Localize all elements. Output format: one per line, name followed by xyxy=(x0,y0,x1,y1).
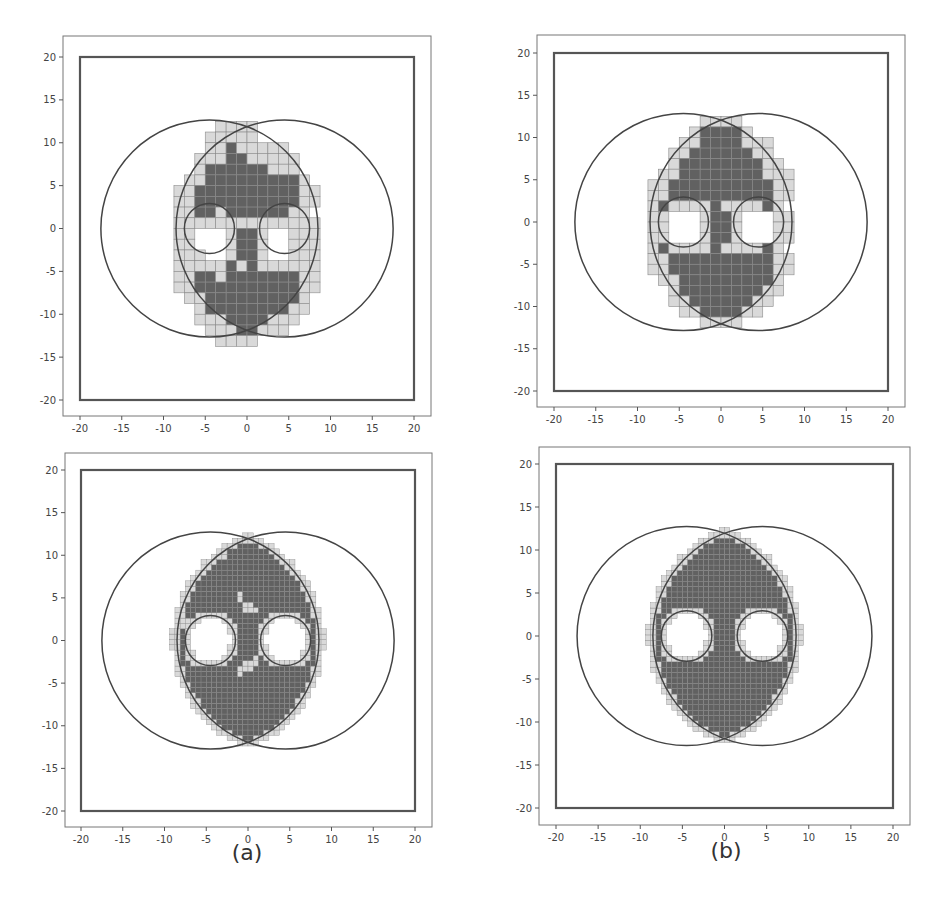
y-tick-label: -20 xyxy=(516,803,532,814)
y-tick-label: 5 xyxy=(526,588,532,599)
plot-svg: -20-15-10-505101520-20-15-10-505101520 xyxy=(0,0,944,905)
y-tick-label: -5 xyxy=(522,674,532,685)
x-tick-label: -5 xyxy=(677,832,687,843)
y-tick-label: -15 xyxy=(516,760,532,771)
x-tick-label: -20 xyxy=(548,832,564,843)
figure: -20-15-10-505101520-20-15-10-505101520 -… xyxy=(0,0,944,905)
caption-b: (b) xyxy=(710,838,741,863)
y-tick-label: -10 xyxy=(516,717,532,728)
x-tick-label: -15 xyxy=(590,832,606,843)
x-tick-label: 10 xyxy=(802,832,815,843)
x-tick-label: 20 xyxy=(887,832,900,843)
y-tick-label: 10 xyxy=(519,545,532,556)
y-tick-label: 20 xyxy=(519,459,532,470)
x-tick-label: 5 xyxy=(763,832,769,843)
y-tick-label: 15 xyxy=(519,502,532,513)
x-tick-label: -10 xyxy=(632,832,648,843)
caption-a: (a) xyxy=(232,840,263,865)
y-tick-label: 0 xyxy=(526,631,532,642)
x-tick-label: 15 xyxy=(845,832,858,843)
